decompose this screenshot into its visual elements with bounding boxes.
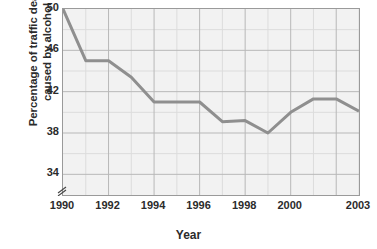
y-axis-tick-labels: 50 46 42 38 34	[30, 0, 59, 249]
x-axis-tick-label: 1992	[95, 199, 119, 211]
x-axis-tick-label: 1990	[50, 199, 74, 211]
x-axis-tick-label: 2000	[277, 199, 301, 211]
x-axis-title: Year	[0, 228, 377, 242]
plot-area	[62, 8, 360, 196]
x-axis-tick-label: 1996	[186, 199, 210, 211]
x-axis-tick-label: 2003	[346, 199, 370, 211]
chart-figure: Percentage of traffic deaths caused by a…	[0, 0, 377, 249]
y-axis-tick-label: 42	[33, 84, 59, 96]
x-axis-tick-label: 1994	[141, 199, 165, 211]
y-axis-tick-label: 50	[33, 1, 59, 13]
minor-gridlines	[63, 9, 359, 195]
plot-svg	[63, 9, 359, 195]
major-gridlines	[63, 9, 359, 195]
y-axis-tick-label: 38	[33, 125, 59, 137]
y-axis-tick-label: 46	[33, 42, 59, 54]
axis-break-icon	[56, 180, 70, 196]
x-axis-tick-label: 1998	[232, 199, 256, 211]
y-axis-tick-label: 34	[33, 166, 59, 178]
